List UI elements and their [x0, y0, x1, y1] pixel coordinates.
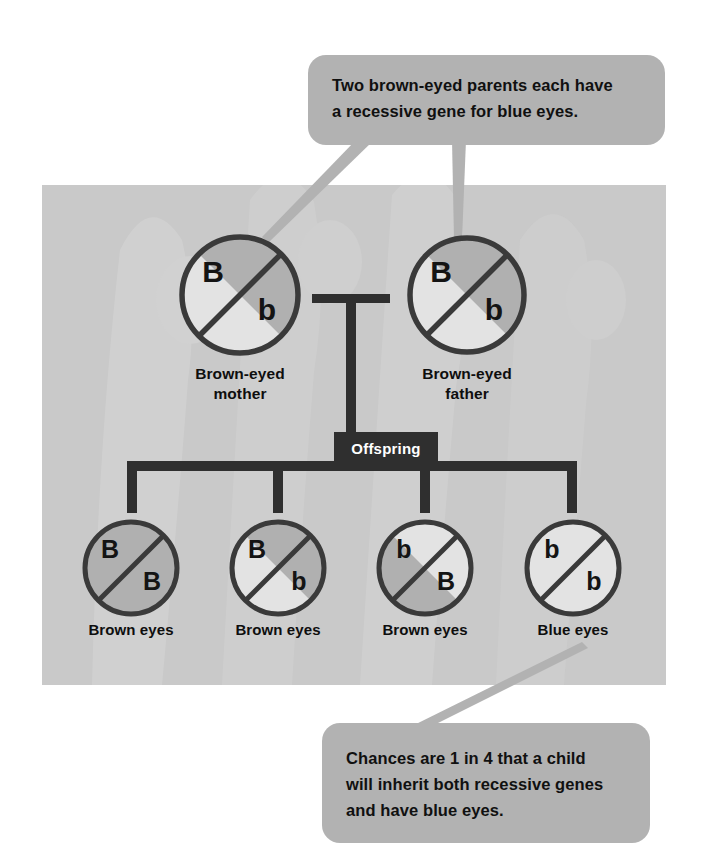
- allele-child3-upper: b: [389, 535, 419, 564]
- offspring-stub-3: [420, 461, 430, 513]
- diagram-artwork: [0, 0, 701, 849]
- allele-child2-lower: b: [284, 567, 314, 596]
- allele-child1-upper: B: [95, 535, 125, 564]
- offspring-stub-1: [127, 461, 137, 513]
- offspring-stub-4: [567, 461, 577, 513]
- allele-father-upper: B: [424, 255, 458, 289]
- offspring-label: Offspring: [338, 435, 434, 462]
- allele-child2-upper: B: [242, 535, 272, 564]
- offspring-stub-2: [273, 461, 283, 513]
- allele-mother-upper: B: [196, 255, 230, 289]
- allele-child3-lower: B: [431, 567, 461, 596]
- allele-father-lower: b: [477, 293, 511, 327]
- callout-top-text: Two brown-eyed parents each have a reces…: [332, 72, 652, 124]
- offspring-label-3: Brown eyes: [350, 620, 500, 640]
- callout-bottom-text: Chances are 1 in 4 that a child will inh…: [346, 745, 646, 823]
- genetics-diagram: Two brown-eyed parents each have a reces…: [0, 0, 701, 849]
- allele-mother-lower: b: [250, 293, 284, 327]
- parent-label-mother: Brown-eyed mother: [145, 364, 335, 404]
- parent-label-father: Brown-eyed father: [372, 364, 562, 404]
- allele-child4-upper: b: [537, 535, 567, 564]
- parent-descent-line: [346, 294, 356, 436]
- offspring-label-1: Brown eyes: [56, 620, 206, 640]
- allele-child1-lower: B: [137, 567, 167, 596]
- allele-child4-lower: b: [579, 567, 609, 596]
- offspring-label-2: Brown eyes: [203, 620, 353, 640]
- offspring-label-4: Blue eyes: [498, 620, 648, 640]
